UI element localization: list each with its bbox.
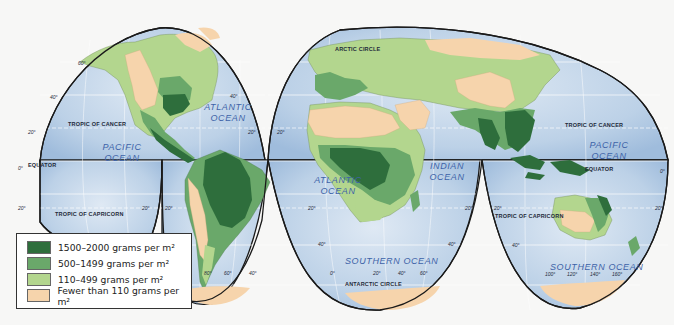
legend-item: 1500–2000 grams per m² bbox=[27, 240, 175, 255]
map-legend: 1500–2000 grams per m² 500–1499 grams pe… bbox=[16, 233, 192, 309]
legend-swatch bbox=[27, 257, 51, 270]
legend-item: Fewer than 110 grams per m² bbox=[27, 288, 191, 303]
legend-label: 500–1499 grams per m² bbox=[58, 258, 169, 269]
legend-label: Fewer than 110 grams per m² bbox=[57, 285, 191, 307]
legend-label: 1500–2000 grams per m² bbox=[58, 242, 175, 253]
legend-item: 500–1499 grams per m² bbox=[27, 256, 169, 271]
legend-swatch bbox=[27, 241, 51, 254]
legend-label: 110–499 grams per m² bbox=[58, 274, 163, 285]
legend-swatch bbox=[27, 273, 51, 286]
legend-swatch bbox=[27, 289, 50, 302]
